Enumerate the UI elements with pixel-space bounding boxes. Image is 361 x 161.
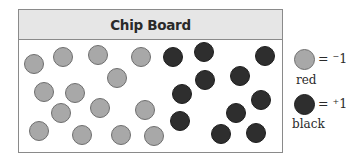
red-chip xyxy=(107,68,127,88)
black-chip xyxy=(170,111,190,131)
red-chip xyxy=(53,47,73,67)
black-chip xyxy=(226,103,246,123)
equals-sign: = xyxy=(318,96,332,111)
red-chip xyxy=(135,100,155,120)
black-chip xyxy=(172,84,192,104)
red-chip-legend-icon xyxy=(294,49,315,70)
red-chip xyxy=(51,103,71,123)
red-chip xyxy=(111,125,131,145)
black-chip xyxy=(194,42,214,62)
value: 1 xyxy=(339,51,347,66)
red-chip xyxy=(88,45,108,65)
red-chip xyxy=(144,126,164,146)
black-chip xyxy=(251,90,271,110)
red-chip xyxy=(90,98,110,118)
red-chip xyxy=(65,83,85,103)
black-chip xyxy=(211,124,231,144)
red-chip-label: red xyxy=(296,73,317,87)
red-chip xyxy=(24,54,44,74)
black-chip xyxy=(163,47,183,67)
black-chip-legend-icon xyxy=(294,94,315,115)
board-title: Chip Board xyxy=(19,10,282,40)
black-chip xyxy=(195,70,215,90)
red-chip xyxy=(131,47,151,67)
equals-sign: = xyxy=(318,51,332,66)
black-chip-value: = +1 xyxy=(318,96,347,111)
value: 1 xyxy=(339,96,347,111)
black-chip xyxy=(246,123,266,143)
red-chip xyxy=(29,121,49,141)
black-chip xyxy=(255,46,275,66)
red-chip xyxy=(72,125,92,145)
red-chip-value: = −1 xyxy=(318,51,347,66)
black-chip-label: black xyxy=(292,117,325,131)
red-chip xyxy=(34,82,54,102)
black-chip xyxy=(230,66,250,86)
